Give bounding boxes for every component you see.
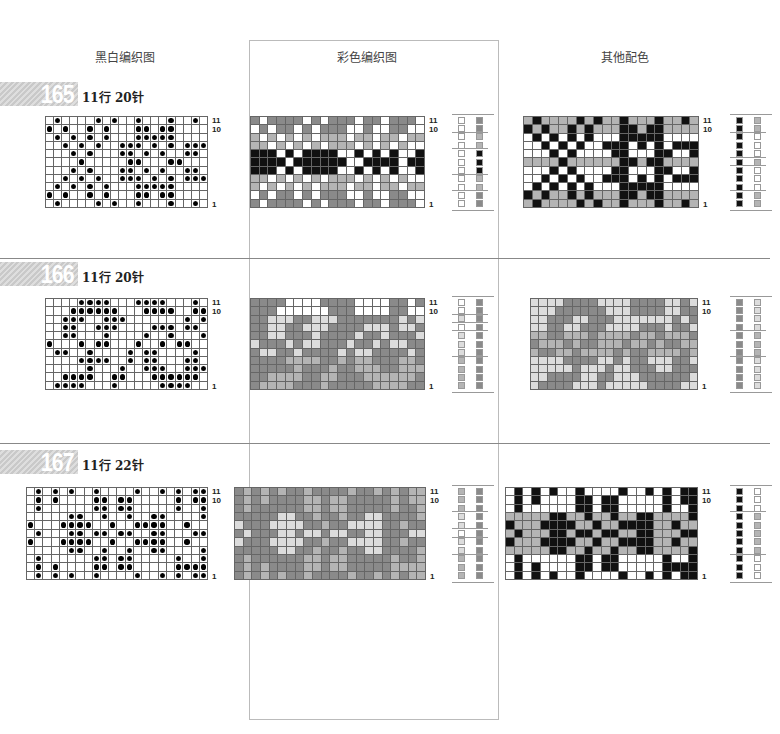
stitch-cell: [381, 340, 389, 347]
stitch-cell: [523, 496, 531, 503]
stitch-cell: [589, 299, 596, 306]
stitch-cell: [672, 505, 680, 512]
stitch-cell: [252, 563, 260, 570]
stitch-cell: [655, 167, 663, 174]
stitch-cell: [614, 299, 621, 306]
stitch-cell: [294, 200, 302, 207]
stitch-cell: [184, 200, 191, 207]
stitch-cell: [244, 496, 252, 503]
stitch-cell: [690, 183, 698, 190]
stitch-cell: [638, 191, 646, 198]
stitch-cell: [558, 538, 566, 545]
stitch-cell: [35, 563, 42, 570]
stitch-cell: [381, 183, 389, 190]
stitch-cell: [628, 547, 636, 554]
stitch-cell: [631, 332, 638, 339]
legend-divider: [452, 537, 488, 538]
yarn-color-swatch: [476, 175, 483, 182]
stitch-cell: [68, 505, 75, 512]
stitch-cell: [568, 175, 576, 182]
stitch-cell: [348, 555, 356, 562]
stitch-cell: [602, 521, 610, 528]
stitch-cell: [647, 175, 655, 182]
stitch-cell: [286, 332, 294, 339]
stitch-cell: [602, 513, 610, 520]
stitch-cell: [506, 563, 514, 570]
stitch-cell: [135, 307, 142, 314]
stitch-cell: [506, 505, 514, 512]
stitch-cell: [127, 373, 134, 380]
stitch-cell: [119, 357, 126, 364]
stitch-cell: [523, 505, 531, 512]
stitch-cell: [287, 496, 295, 503]
stitch-cell: [62, 365, 69, 372]
stitch-cell: [304, 513, 312, 520]
stitch-cell: [355, 150, 363, 157]
stitch-cell: [184, 382, 191, 389]
stitch-cell: [620, 167, 628, 174]
stitch-cell: [531, 357, 538, 364]
stitch-cell: [54, 125, 61, 132]
stitch-cell: [593, 530, 601, 537]
stitch-cell: [347, 307, 355, 314]
stitch-cell: [673, 365, 680, 372]
stitch-cell: [355, 382, 363, 389]
stitch-cell: [143, 307, 150, 314]
stitch-cell: [159, 158, 166, 165]
stitch-cell: [46, 316, 53, 323]
stitch-cell: [60, 488, 67, 495]
stitch-cell: [568, 191, 576, 198]
stitch-cell: [192, 150, 199, 157]
stitch-cell: [689, 530, 697, 537]
stitch-cell: [614, 373, 621, 380]
stitch-cell: [531, 365, 538, 372]
stitch-cell: [135, 191, 142, 198]
stitch-cell: [598, 340, 605, 347]
stitch-cell: [192, 488, 199, 495]
stitch-cell: [620, 191, 628, 198]
stitch-cell: [62, 117, 69, 124]
stitch-cell: [184, 134, 191, 141]
stitch-cell: [539, 373, 546, 380]
stitch-cell: [506, 547, 514, 554]
stitch-cell: [589, 340, 596, 347]
stitch-cell: [638, 142, 646, 149]
stitch-cell: [541, 572, 549, 579]
stitch-cell: [329, 373, 337, 380]
stitch-cell: [303, 150, 311, 157]
stitch-cell: [631, 307, 638, 314]
stitch-cell: [184, 191, 191, 198]
stitch-cell: [313, 513, 321, 520]
stitch-cell: [623, 357, 630, 364]
stitch-cell: [95, 142, 102, 149]
stitch-cell: [43, 572, 50, 579]
stitch-cell: [355, 299, 363, 306]
stitch-cell: [568, 158, 576, 165]
yarn-color-swatch: [754, 307, 761, 314]
legend-divider: [730, 296, 772, 297]
stitch-cell: [640, 365, 647, 372]
stitch-cell: [68, 530, 75, 537]
stitch-cell: [86, 299, 93, 306]
yarn-color-swatch: [754, 117, 761, 124]
stitch-cell: [611, 513, 619, 520]
stitch-cell: [103, 125, 110, 132]
stitch-cell: [532, 547, 540, 554]
stitch-cell: [539, 332, 546, 339]
stitch-cell: [321, 349, 329, 356]
stitch-cell: [235, 538, 243, 545]
stitch-cell: [78, 125, 85, 132]
stitch-cell: [143, 324, 150, 331]
stitch-cell: [176, 200, 183, 207]
stitch-cell: [556, 299, 563, 306]
stitch-cell: [390, 382, 398, 389]
stitch-cell: [329, 117, 337, 124]
stitch-cell: [623, 299, 630, 306]
stitch-cell: [603, 117, 611, 124]
stitch-cell: [127, 200, 134, 207]
stitch-cell: [559, 142, 567, 149]
stitch-cell: [268, 307, 276, 314]
stitch-cell: [558, 505, 566, 512]
stitch-cell: [192, 316, 199, 323]
stitch-cell: [127, 357, 134, 364]
